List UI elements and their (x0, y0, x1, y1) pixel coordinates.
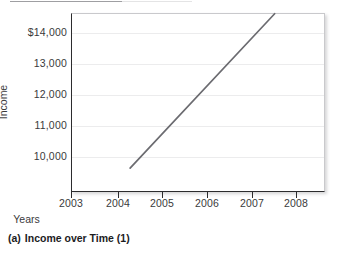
y-tick-label-13000: 13,000 (1, 57, 67, 69)
figure-caption: (a)Income over Time (1) (8, 232, 130, 244)
y-axis-title: Income (0, 85, 9, 119)
gridline-14000 (72, 33, 324, 34)
y-tick-label-10000: 10,000 (1, 150, 67, 162)
plot-area (71, 13, 325, 192)
figure-caption-text: Income over Time (1) (25, 232, 130, 244)
y-tick-label-11000: 11,000 (1, 119, 67, 131)
x-tick-label-2008: 2008 (284, 197, 308, 209)
gridline-13000 (72, 64, 324, 65)
x-tick-label-2006: 2006 (195, 197, 219, 209)
x-tick-label-2003: 2003 (59, 197, 83, 209)
figure-income-over-time: $14,000 13,000 12,000 11,000 10,000 Inco… (0, 0, 343, 253)
x-tick-label-2007: 2007 (240, 197, 264, 209)
y-tick-label-14000: $14,000 (1, 26, 67, 38)
y-tick-label-12000: 12,000 (1, 88, 67, 100)
x-axis-title: Years (13, 213, 39, 225)
page-rule-right (122, 1, 192, 2)
figure-caption-index: (a) (8, 232, 21, 244)
gridline-12000 (72, 95, 324, 96)
x-tick-label-2004: 2004 (106, 197, 130, 209)
x-axis-title-wrap: Years (0, 213, 343, 225)
gridline-11000 (72, 126, 324, 127)
x-tick-label-2005: 2005 (150, 197, 174, 209)
gridline-10000 (72, 157, 324, 158)
